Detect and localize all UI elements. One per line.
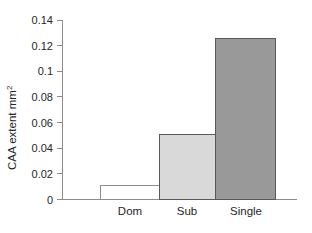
y-tick-label-4: 0.08	[32, 91, 53, 103]
y-tick-label-3: 0.06	[32, 117, 53, 129]
y-axis-title-superscript: 2	[5, 85, 14, 90]
y-tick-marks	[57, 20, 63, 200]
y-tick-labels: 0 0.02 0.04 0.06 0.08 0.1 0.12 0.14	[32, 14, 53, 206]
bar-single	[216, 39, 276, 200]
y-tick-label-6: 0.12	[32, 40, 53, 52]
y-axis-title-text: CAA extent mm	[6, 90, 18, 170]
y-axis-title: CAA extent mm2	[5, 85, 18, 170]
y-tick-label-5: 0.1	[38, 65, 53, 77]
y-tick-label-7: 0.14	[32, 14, 53, 26]
x-label-single: Single	[230, 205, 262, 217]
y-tick-label-0: 0	[47, 194, 53, 206]
x-label-sub: Sub	[177, 205, 197, 217]
y-tick-label-1: 0.02	[32, 168, 53, 180]
bar-dom	[101, 186, 160, 200]
x-label-dom: Dom	[118, 205, 142, 217]
chart-canvas: CAA extent mm2 0 0.02 0.04 0.06 0.08 0.1	[0, 0, 312, 233]
x-category-labels: Dom Sub Single	[118, 205, 262, 217]
y-axis-title-group: CAA extent mm2	[5, 85, 18, 170]
bar-chart-figure: CAA extent mm2 0 0.02 0.04 0.06 0.08 0.1	[0, 0, 312, 233]
bars-group	[101, 39, 276, 200]
y-tick-label-2: 0.04	[32, 142, 53, 154]
bar-sub	[160, 135, 216, 200]
